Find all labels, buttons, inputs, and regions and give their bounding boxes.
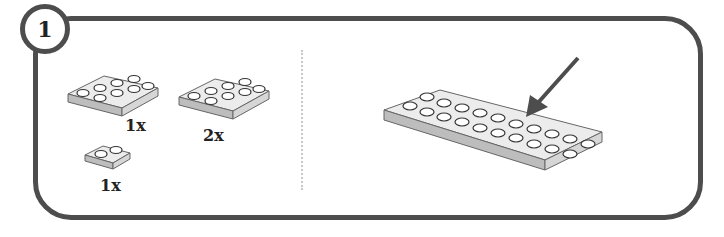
part-quantity: 1x	[100, 176, 121, 195]
brick-plate-2x4-icon	[66, 72, 161, 117]
part-quantity: 1x	[125, 116, 146, 135]
section-divider	[301, 50, 303, 190]
brick-plate-1x2-icon	[83, 143, 133, 171]
step-number: 1	[37, 16, 52, 42]
brick-plate-2x4-icon	[177, 75, 272, 120]
part-quantity: 2x	[203, 126, 224, 145]
step-number-badge: 1	[20, 4, 70, 54]
placement-arrow-icon	[520, 55, 585, 120]
